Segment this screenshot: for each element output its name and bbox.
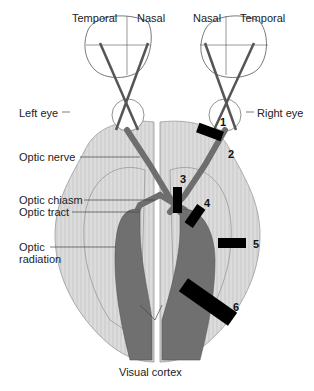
lesion-3-label: 3 <box>180 173 186 185</box>
right-temporal-label: Temporal <box>240 12 285 24</box>
lesion-1-label: 1 <box>220 116 226 128</box>
optic-chiasm-label: Optic chiasm <box>19 194 83 206</box>
lesion-5-label: 5 <box>253 238 259 250</box>
right-nasal-label: Nasal <box>193 12 221 24</box>
optic-radiation-label-line2: radiation <box>19 253 61 265</box>
left-visual-field <box>85 16 151 78</box>
left-eye-label: Left eye <box>19 107 58 119</box>
left-nasal-label: Nasal <box>137 12 165 24</box>
lesion-6-label: 6 <box>233 301 239 313</box>
optic-nerve-label: Optic nerve <box>19 151 75 163</box>
right-visual-field <box>200 16 268 78</box>
visual-cortex-label: Visual cortex <box>119 366 182 378</box>
lesion-4-label: 4 <box>204 197 210 209</box>
optic-tract-label: Optic tract <box>19 206 69 218</box>
optic-radiation-label-line1: Optic <box>19 241 45 253</box>
left-temporal-label: Temporal <box>72 12 117 24</box>
right-eye-label: Right eye <box>257 107 303 119</box>
lesion-2-label: 2 <box>228 148 234 160</box>
